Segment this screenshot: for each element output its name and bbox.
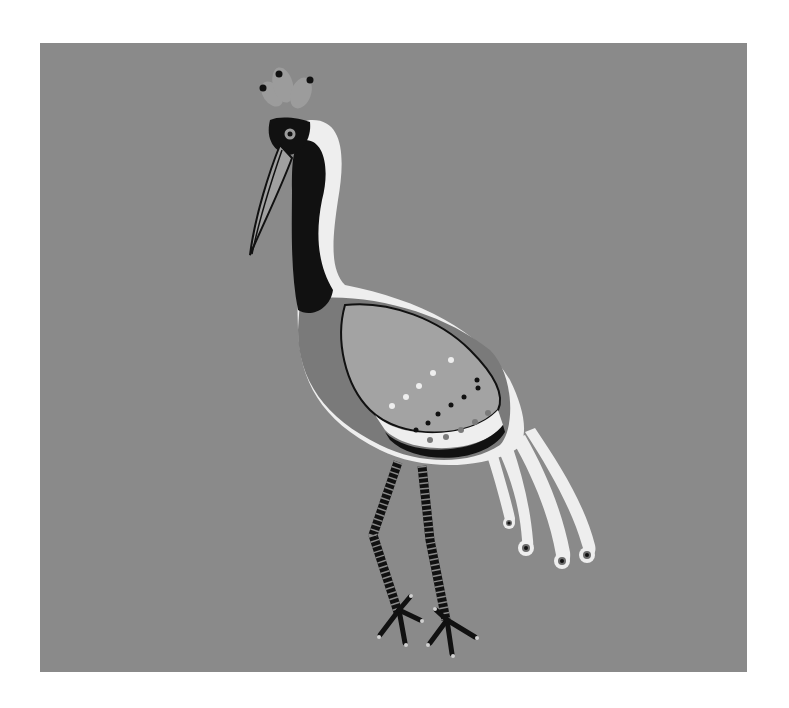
crane-illustration: [40, 43, 747, 672]
artwork-canvas: [40, 43, 747, 672]
